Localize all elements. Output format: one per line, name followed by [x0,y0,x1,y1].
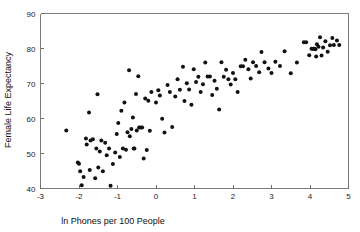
data-point [270,71,274,75]
data-point [91,137,95,141]
x-tick-label: 0 [154,192,159,201]
axis-titles-group: ln Phones per 100 People Female Life Exp… [3,51,165,226]
x-tick-label: -3 [37,192,45,201]
data-point [251,60,255,64]
data-point [160,117,164,121]
data-point [320,54,324,58]
data-point [326,50,330,54]
data-point [181,65,185,69]
x-tick-label: 4 [308,192,313,201]
data-point [111,162,115,166]
data-point [323,39,327,43]
data-point [217,107,221,111]
data-point [257,70,261,74]
data-point [96,166,100,170]
data-point [64,128,68,132]
data-point [132,147,136,151]
data-point [182,99,186,103]
data-point [156,88,160,92]
x-axis-title: ln Phones per 100 People [61,216,165,226]
data-point [241,64,245,68]
y-tick-label: 70 [27,80,36,89]
data-point [107,147,111,151]
data-point [122,100,126,104]
y-tick-label: 90 [27,10,36,19]
data-point [192,67,196,71]
data-point [222,75,226,79]
data-point [259,50,263,54]
data-point [203,61,207,65]
data-point [226,77,230,81]
data-point [231,71,235,75]
data-point [236,90,240,94]
data-point [113,150,117,154]
data-point [109,184,113,188]
data-point [140,126,144,130]
data-point [99,139,103,143]
data-point [115,132,119,136]
data-point [158,93,162,97]
data-point [95,92,99,96]
y-tick-label: 50 [27,150,36,159]
data-point [149,90,153,94]
data-point [335,38,339,42]
data-point [176,77,180,81]
data-point [246,67,250,71]
x-tick-label: 5 [346,192,351,201]
data-point [94,147,98,151]
data-point [321,45,325,49]
data-point [189,103,193,107]
data-point [170,125,174,129]
data-point [128,134,132,138]
data-point [318,35,322,39]
data-point [215,87,219,91]
data-point [283,49,287,53]
data-point [116,121,120,125]
data-point [243,58,247,62]
data-point [98,149,102,153]
data-point [316,45,320,49]
data-point [314,55,318,59]
data-point [162,131,166,135]
data-point [77,162,81,166]
data-point [103,141,107,145]
data-point [85,142,89,146]
data-point [295,61,299,65]
data-point [210,93,214,97]
data-point [266,66,270,70]
x-tick-label: 2 [231,192,236,201]
data-point [304,40,308,44]
data-point [142,156,146,160]
data-point [233,77,237,81]
data-point [129,127,133,131]
y-axis-title: Female Life Expectancy [3,51,13,148]
data-point [229,83,233,87]
data-point [101,169,105,173]
x-tick-label: 3 [269,192,274,201]
data-point [224,68,228,72]
data-point [148,129,152,133]
x-tick-label: 1 [192,192,197,201]
scatter-plot-figure: -3-2-1012345405060708090 ln Phones per 1… [0,0,360,232]
data-point [145,148,149,152]
data-point [88,168,92,172]
data-point [119,109,123,113]
data-point [105,153,109,157]
y-tick-label: 40 [27,185,36,194]
data-point [213,79,217,83]
data-point [80,183,84,187]
data-point [332,43,336,47]
y-tick-label: 60 [27,115,36,124]
data-point [219,60,223,64]
data-point [146,99,150,103]
data-point [154,100,158,104]
data-point [136,74,140,78]
data-point [93,176,97,180]
data-point [328,43,332,47]
data-point [278,64,282,68]
data-point [201,82,205,86]
data-point [178,88,182,92]
data-points-group [64,35,341,187]
y-tick-label: 80 [27,45,36,54]
data-point [208,75,212,79]
